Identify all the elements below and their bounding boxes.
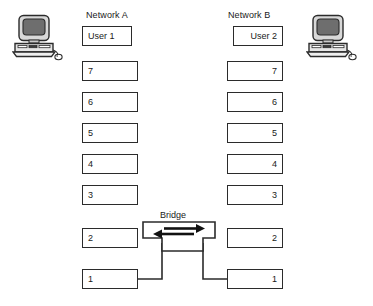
network-a-layer-3[interactable]: 3 — [82, 185, 138, 205]
network-a-layer-7[interactable]: 7 — [82, 61, 138, 81]
network-b-layer-6[interactable]: 6 — [227, 92, 283, 112]
bridge-label: Bridge — [160, 210, 186, 220]
network-b-layer-5[interactable]: 5 — [227, 123, 283, 143]
network-a-layer-5[interactable]: 5 — [82, 123, 138, 143]
bridge-device[interactable] — [140, 220, 230, 254]
network-b-layer-3[interactable]: 3 — [227, 185, 283, 205]
network-a-layer-1[interactable]: 1 — [82, 269, 138, 289]
network-b-layer-user[interactable]: User 2 — [233, 26, 283, 46]
network-bridge-diagram: Network A User 1 7 6 5 4 3 2 1 Network B… — [0, 0, 373, 306]
computer-icon-user2 — [306, 14, 358, 62]
network-b-title: Network B — [228, 10, 270, 20]
network-b-layer-4[interactable]: 4 — [227, 154, 283, 174]
network-a-layer-2[interactable]: 2 — [82, 228, 138, 248]
network-a-layer-user[interactable]: User 1 — [82, 26, 132, 46]
network-b-layer-2[interactable]: 2 — [227, 228, 283, 248]
network-b-layer-1[interactable]: 1 — [227, 269, 283, 289]
computer-icon-user1 — [12, 14, 64, 62]
network-a-layer-6[interactable]: 6 — [82, 92, 138, 112]
network-a-title: Network A — [86, 10, 128, 20]
network-b-layer-7[interactable]: 7 — [227, 61, 283, 81]
network-a-layer-4[interactable]: 4 — [82, 154, 138, 174]
